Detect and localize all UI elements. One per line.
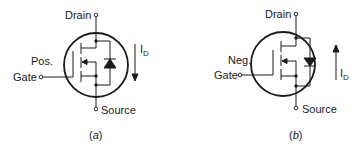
body-arrow-icon [82, 60, 87, 65]
source-terminal [94, 107, 98, 111]
caption-a: (a) [89, 129, 102, 141]
gate-terminal [39, 75, 43, 79]
current-label: ID [340, 67, 349, 82]
body-arrow-icon [282, 59, 287, 64]
source-terminal [294, 106, 298, 110]
gate-label: Gate [214, 69, 238, 81]
gate-label: Gate [13, 71, 37, 83]
panel-b: Drain Source Gate Neg. ID [214, 8, 349, 141]
source-label: Source [302, 103, 337, 115]
gate-terminal [238, 73, 242, 77]
gate-polarity-label: Neg. [228, 54, 251, 66]
gate-polarity-label: Pos. [31, 55, 53, 67]
drain-label: Drain [65, 9, 91, 21]
caption-b: (b) [289, 129, 302, 141]
arrow-up-icon [333, 45, 339, 52]
drain-label: Drain [265, 8, 291, 20]
panel-a: Drain Source Gate Pos. [13, 9, 149, 141]
source-label: Source [101, 104, 136, 116]
drain-terminal [294, 12, 298, 16]
arrow-down-icon [132, 74, 138, 81]
mosfet-diagram: Drain Source Gate Pos. [0, 0, 362, 150]
current-label: ID [140, 43, 149, 58]
drain-terminal [94, 13, 98, 17]
diode-icon [104, 59, 116, 68]
